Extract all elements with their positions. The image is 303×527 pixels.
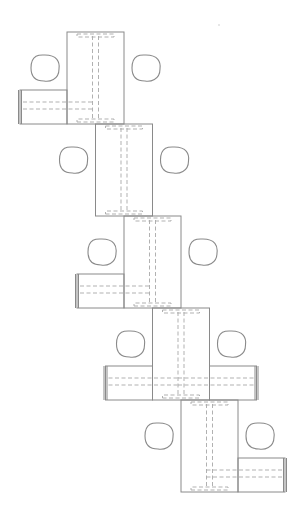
pad-left xyxy=(60,147,88,173)
connector-stub-right xyxy=(210,366,257,400)
module-5 xyxy=(145,400,287,492)
pad-right xyxy=(161,147,189,173)
pad-left xyxy=(31,55,59,81)
connector-stub-left xyxy=(77,274,124,308)
diagram-canvas xyxy=(0,0,303,527)
hidden-bottom-flange xyxy=(77,119,114,122)
pad-right xyxy=(218,331,246,357)
hidden-top-flange xyxy=(163,310,200,313)
hidden-top-flange xyxy=(106,126,143,129)
module-1 xyxy=(19,32,161,124)
module-body xyxy=(181,400,238,492)
module-body xyxy=(153,308,210,400)
pad-left xyxy=(145,423,173,449)
hidden-bottom-flange xyxy=(163,395,200,398)
module-4 xyxy=(104,308,258,400)
module-stack xyxy=(19,32,287,492)
hidden-bottom-flange xyxy=(191,487,228,490)
pad-right xyxy=(132,55,160,81)
hidden-bottom-flange xyxy=(134,303,171,306)
hidden-top-flange xyxy=(134,218,171,221)
pad-left xyxy=(117,331,145,357)
module-2 xyxy=(60,124,189,216)
hidden-bottom-flange xyxy=(106,211,143,214)
connector-stub-right xyxy=(238,458,285,492)
module-body xyxy=(124,216,181,308)
stray-mark xyxy=(218,24,220,26)
module-body xyxy=(96,124,153,216)
pad-right xyxy=(189,239,217,265)
hidden-top-flange xyxy=(191,402,228,405)
connector-stub-left xyxy=(20,90,67,124)
pad-left xyxy=(88,239,116,265)
module-3 xyxy=(76,216,218,308)
pad-right xyxy=(246,423,274,449)
module-body xyxy=(67,32,124,124)
hidden-top-flange xyxy=(77,34,114,37)
connector-stub-left xyxy=(106,366,153,400)
